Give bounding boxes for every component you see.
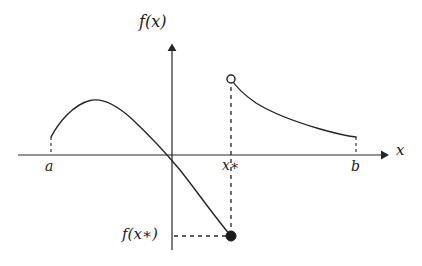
left-endpoint-label: a <box>45 159 53 173</box>
x-axis <box>18 151 389 160</box>
function-value-label: f(x∗) <box>122 227 158 242</box>
filled-dot-marker <box>226 231 236 241</box>
discontinuity-x-label: x∗ <box>222 158 239 172</box>
open-circle-marker <box>227 75 235 83</box>
y-axis-label: f(x) <box>139 14 166 30</box>
plot-canvas <box>0 0 422 266</box>
function-graph-figure: f(x) x a b x∗ f(x∗) <box>0 0 422 266</box>
y-axis <box>168 44 177 251</box>
right-endpoint-label: b <box>351 159 360 173</box>
y-axis-arrowhead <box>168 44 177 52</box>
x-axis-label: x <box>396 143 404 158</box>
curve-branch-right <box>231 79 356 137</box>
curve-branch-left <box>51 100 231 236</box>
x-axis-arrowhead <box>381 151 389 160</box>
